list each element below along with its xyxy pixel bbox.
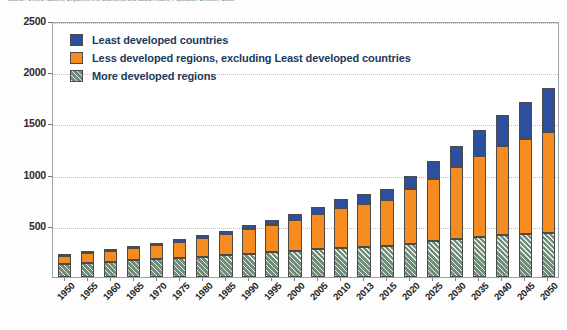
bar-segment[interactable]	[427, 161, 440, 178]
x-axis-tick-mark	[432, 278, 433, 281]
bar-segment[interactable]	[242, 254, 255, 277]
x-axis-tick-label: 2025	[423, 280, 445, 302]
bar-segment[interactable]	[196, 238, 209, 256]
y-axis-tick-label: 1000	[2, 169, 46, 181]
bar-segment[interactable]	[127, 246, 140, 248]
bar-segment[interactable]	[334, 199, 347, 208]
x-axis-tick-label: 1950	[54, 280, 76, 302]
x-axis-tick-mark	[156, 278, 157, 281]
bar-segment[interactable]	[173, 242, 186, 258]
x-axis-tick-mark	[317, 278, 318, 281]
bar-segment[interactable]	[450, 146, 463, 167]
bar-segment[interactable]	[173, 258, 186, 277]
bar-segment[interactable]	[150, 243, 163, 245]
bar-segment[interactable]	[288, 251, 301, 277]
x-axis-tick-label: 2000	[285, 280, 307, 302]
x-axis-tick-label: 2050	[538, 280, 560, 302]
bar-segment[interactable]	[104, 262, 117, 277]
bar-segment[interactable]	[404, 244, 417, 277]
bar-group[interactable]	[473, 21, 486, 277]
x-axis-tick-mark	[202, 278, 203, 281]
bar-segment[interactable]	[81, 251, 94, 253]
legend-item-label: Less developed regions, excluding Least …	[92, 52, 411, 64]
bar-segment[interactable]	[81, 263, 94, 277]
bar-segment[interactable]	[404, 189, 417, 243]
bar-segment[interactable]	[496, 146, 509, 235]
bar-segment[interactable]	[104, 251, 117, 261]
bar-segment[interactable]	[496, 235, 509, 277]
bar-segment[interactable]	[404, 176, 417, 190]
bar-segment[interactable]	[496, 115, 509, 146]
bar-segment[interactable]	[473, 156, 486, 237]
bar-group[interactable]	[519, 21, 532, 277]
bar-segment[interactable]	[380, 246, 393, 277]
bar-segment[interactable]	[265, 252, 278, 277]
x-axis-tick-label: 2035	[469, 280, 491, 302]
bar-segment[interactable]	[58, 264, 71, 277]
bar-segment[interactable]	[380, 200, 393, 247]
bar-segment[interactable]	[288, 214, 301, 220]
bar-segment[interactable]	[473, 237, 486, 277]
bar-segment[interactable]	[219, 255, 232, 277]
y-axis-tick-label: 1500	[2, 117, 46, 129]
chart-legend: Least developed countriesLess developed …	[70, 31, 411, 85]
bar-group[interactable]	[542, 21, 555, 277]
bar-segment[interactable]	[127, 248, 140, 260]
x-axis-tick-mark	[64, 278, 65, 281]
bar-segment[interactable]	[127, 260, 140, 277]
bar-segment[interactable]	[357, 204, 370, 247]
bar-segment[interactable]	[196, 257, 209, 277]
bar-segment[interactable]	[104, 249, 117, 251]
bar-segment[interactable]	[219, 231, 232, 235]
x-axis-tick-mark	[455, 278, 456, 281]
bar-segment[interactable]	[58, 254, 71, 256]
bar-segment[interactable]	[81, 253, 94, 262]
legend-swatch-icon	[70, 70, 83, 82]
bar-segment[interactable]	[242, 229, 255, 254]
bar-segment[interactable]	[427, 179, 440, 241]
x-axis-tick-label: 2013	[354, 280, 376, 302]
bar-segment[interactable]	[334, 208, 347, 248]
bar-segment[interactable]	[380, 189, 393, 200]
bar-segment[interactable]	[288, 220, 301, 251]
bar-segment[interactable]	[150, 245, 163, 259]
bar-segment[interactable]	[357, 194, 370, 204]
bar-group[interactable]	[427, 21, 440, 277]
bar-segment[interactable]	[58, 256, 71, 264]
bar-segment[interactable]	[311, 214, 324, 249]
bar-segment[interactable]	[265, 220, 278, 225]
bar-segment[interactable]	[542, 88, 555, 132]
bar-group[interactable]	[450, 21, 463, 277]
bar-segment[interactable]	[311, 249, 324, 277]
bar-segment[interactable]	[450, 239, 463, 277]
legend-item[interactable]: Less developed regions, excluding Least …	[70, 49, 411, 66]
bar-segment[interactable]	[219, 234, 232, 255]
bar-segment[interactable]	[519, 139, 532, 234]
x-axis-tick-mark	[501, 278, 502, 281]
bar-segment[interactable]	[473, 130, 486, 156]
x-axis-tick-label: 1970	[146, 280, 168, 302]
bar-segment[interactable]	[196, 235, 209, 238]
bar-segment[interactable]	[150, 259, 163, 277]
bar-segment[interactable]	[542, 233, 555, 277]
bar-segment[interactable]	[242, 225, 255, 229]
x-axis-tick-label: 2020	[400, 280, 422, 302]
legend-item[interactable]: Least developed countries	[70, 31, 411, 48]
bar-segment[interactable]	[334, 248, 347, 277]
bar-group[interactable]	[496, 21, 509, 277]
x-axis-tick-label: 1955	[77, 280, 99, 302]
bar-segment[interactable]	[173, 239, 186, 242]
legend-item-label: More developed regions	[92, 70, 216, 82]
bar-segment[interactable]	[311, 207, 324, 214]
bar-segment[interactable]	[427, 241, 440, 277]
bar-segment[interactable]	[265, 225, 278, 253]
x-axis-tick-label: 1975	[169, 280, 191, 302]
x-axis-tick-mark	[248, 278, 249, 281]
bar-segment[interactable]	[542, 132, 555, 233]
bar-segment[interactable]	[519, 102, 532, 139]
bar-segment[interactable]	[357, 247, 370, 277]
legend-item[interactable]: More developed regions	[70, 67, 411, 84]
bar-segment[interactable]	[450, 167, 463, 239]
bar-segment[interactable]	[519, 234, 532, 277]
x-axis-tick-label: 1990	[238, 280, 260, 302]
